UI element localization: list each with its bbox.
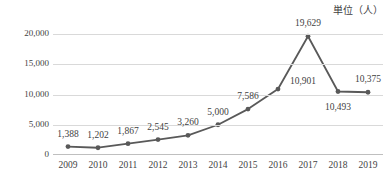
data-point-label: 10,493 bbox=[325, 102, 351, 112]
data-point-marker bbox=[96, 145, 101, 150]
y-axis-tick-label: 0 bbox=[3, 149, 49, 159]
data-point-marker bbox=[246, 107, 251, 112]
x-axis-tick-label: 2013 bbox=[171, 160, 205, 170]
y-axis-tick-label: 20,000 bbox=[3, 28, 49, 38]
y-axis-tick-label: 15,000 bbox=[3, 58, 49, 68]
data-point-marker bbox=[66, 144, 71, 149]
x-axis-line bbox=[53, 154, 383, 155]
y-axis-tick-label: 10,000 bbox=[3, 89, 49, 99]
y-axis-tick-label: 5,000 bbox=[3, 119, 49, 129]
gridline bbox=[53, 34, 383, 35]
data-point-marker bbox=[276, 87, 281, 92]
data-point-label: 5,000 bbox=[207, 107, 228, 117]
data-point-label: 2,545 bbox=[147, 122, 168, 132]
data-point-label: 19,629 bbox=[295, 18, 321, 28]
unit-caption: 単位（人） bbox=[333, 2, 383, 17]
series-polyline bbox=[68, 36, 368, 147]
gridline bbox=[53, 125, 383, 126]
data-point-label: 7,586 bbox=[237, 91, 258, 101]
x-axis-tick-label: 2018 bbox=[321, 160, 355, 170]
line-chart: 単位（人） 05,00010,00015,00020,000 200920102… bbox=[0, 0, 389, 188]
x-axis-tick-label: 2016 bbox=[261, 160, 295, 170]
gridline bbox=[53, 95, 383, 96]
data-point-marker bbox=[186, 133, 191, 138]
data-point-label: 1,867 bbox=[117, 126, 138, 136]
gridline bbox=[53, 64, 383, 65]
x-axis-tick-label: 2014 bbox=[201, 160, 235, 170]
x-axis-tick-label: 2011 bbox=[111, 160, 145, 170]
data-point-label: 1,388 bbox=[57, 129, 78, 139]
data-point-marker bbox=[336, 89, 341, 94]
data-point-marker bbox=[156, 137, 161, 142]
data-point-label: 10,375 bbox=[355, 74, 381, 84]
data-point-label: 3,260 bbox=[177, 117, 198, 127]
x-axis-tick-label: 2015 bbox=[231, 160, 265, 170]
data-point-label: 1,202 bbox=[87, 130, 108, 140]
x-axis-tick-label: 2010 bbox=[81, 160, 115, 170]
x-axis-tick-label: 2019 bbox=[351, 160, 385, 170]
x-axis-tick-label: 2009 bbox=[51, 160, 85, 170]
x-axis-tick-label: 2017 bbox=[291, 160, 325, 170]
x-axis-tick-label: 2012 bbox=[141, 160, 175, 170]
data-point-label: 10,901 bbox=[290, 76, 316, 86]
data-point-marker bbox=[126, 141, 131, 146]
